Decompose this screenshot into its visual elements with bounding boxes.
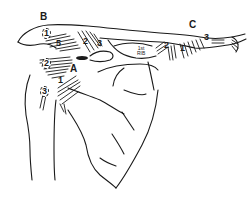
scapula-spine [68,88,124,114]
attachment-b3: 3 [97,39,102,48]
humerus-outer [25,75,32,180]
hatch-region-b [46,31,102,52]
first-rib-inner [114,43,152,46]
region-label-b: B [40,12,47,22]
rib-vertical-2 [113,68,124,86]
scapula-ridge-2 [112,134,124,154]
attachment-b1: 1 [42,28,51,39]
attachment-c1: 1 [180,44,185,53]
scapula-ridge-1 [122,112,134,130]
humerus-inner [54,100,56,180]
attachment-b2: 2 [83,37,88,46]
scapula-lateral-border [68,110,116,188]
region-label-a: A [70,64,77,74]
attachment-a1: 1 [58,76,63,85]
attachment-c2: 2 [164,41,169,50]
scapula-upper-curve [124,90,146,95]
scapula-ridge-3 [100,158,116,166]
region-label-c: C [189,20,196,30]
attachment-c3: 3 [204,33,209,42]
first-rib-label: 1st RIB [137,46,145,57]
attachment-b5: 5 [56,39,61,48]
coracoid-outline [90,51,113,61]
joint-dark-mark [76,56,88,60]
attachment-a3: 3 [40,86,49,97]
shoulder-girdle-diagram: B A C 1 5 2 3 2 1 3 1st RIB 2 1 3 [0,0,251,205]
first-rib-label-line2: RIB [137,50,145,56]
diagram-drawing [0,0,251,205]
scapula-medial-border [116,90,158,188]
attachment-a2: 2 [42,58,51,69]
